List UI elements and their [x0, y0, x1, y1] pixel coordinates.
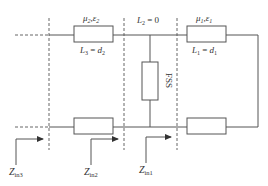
zin1-arrow: [146, 137, 171, 163]
zin2-arrow: [91, 139, 118, 165]
layer1-bottom-line-box: [187, 118, 226, 134]
layer1-top-line-box: [187, 26, 226, 42]
fss-label: FSS: [164, 73, 174, 88]
zin3-arrow: [16, 139, 43, 165]
zin1-label: Zin1: [139, 164, 153, 176]
layer2-length-label: L3 = d2: [79, 45, 105, 56]
layer2-top-line-box: [74, 26, 113, 42]
layer2-material-label: μ2,ε2: [82, 13, 99, 24]
layer2-bottom-line-box: [74, 118, 113, 134]
fss-box: [142, 62, 158, 100]
layer1-material-label: μ1,ε1: [195, 13, 212, 24]
layer1-length-label: L1 = d1: [191, 45, 217, 56]
circuit-diagram: FSS μ2,ε2 L3 = d2 μ1,ε1 L1 = d1 L2 = 0 Z…: [0, 0, 268, 186]
zin2-label: Zin2: [84, 166, 98, 178]
fss-length-label: L2 = 0: [136, 15, 160, 26]
zin3-label: Zin3: [9, 166, 23, 178]
